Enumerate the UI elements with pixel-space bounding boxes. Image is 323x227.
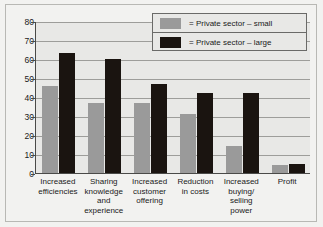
legend-label-small: = Private sector – small — [189, 18, 272, 29]
bar — [134, 103, 150, 173]
bar — [272, 165, 288, 173]
y-tick-mark-0 — [31, 174, 35, 175]
bar — [88, 103, 104, 173]
bar — [180, 114, 196, 173]
legend-item-small: = Private sector – small — [153, 14, 306, 33]
bar-group — [36, 22, 82, 173]
bar — [105, 59, 121, 173]
legend-item-large: = Private sector – large — [153, 32, 306, 52]
bar — [197, 93, 213, 173]
chart-legend: = Private sector – small = Private secto… — [152, 13, 307, 51]
bar — [226, 146, 242, 173]
bar — [243, 93, 259, 173]
bar — [42, 86, 58, 173]
legend-swatch-large-icon — [160, 37, 181, 48]
bar-group — [82, 22, 128, 173]
legend-swatch-small-icon — [160, 18, 181, 29]
bar — [59, 53, 75, 173]
bar — [151, 84, 167, 173]
x-axis-label: Profit — [260, 177, 314, 187]
bar — [289, 164, 305, 174]
legend-label-large: = Private sector – large — [189, 37, 271, 48]
chart-figure: 01020304050607080 IncreasedefficienciesS… — [0, 0, 323, 227]
